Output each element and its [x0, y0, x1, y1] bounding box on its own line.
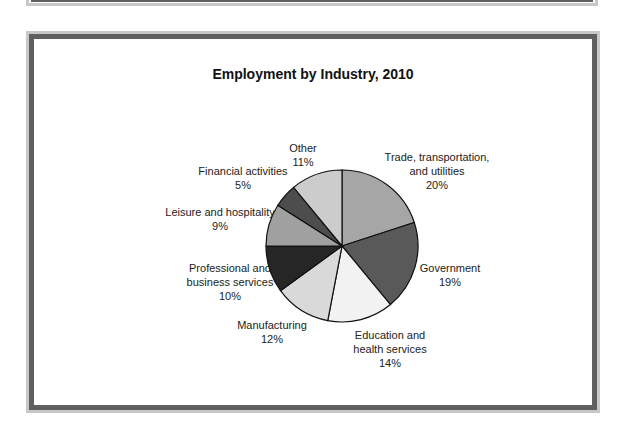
label-professional: Professional andbusiness services10%: [180, 261, 280, 303]
label-other: Other11%: [273, 141, 333, 169]
pie-chart: [0, 0, 632, 434]
label-manufacturing: Manufacturing12%: [222, 318, 322, 346]
label-leisure: Leisure and hospitality9%: [160, 205, 280, 233]
label-government: Government19%: [410, 261, 490, 289]
label-education: Education andhealth services14%: [340, 328, 440, 370]
label-trade: Trade, transportation,and utilities20%: [372, 150, 502, 192]
